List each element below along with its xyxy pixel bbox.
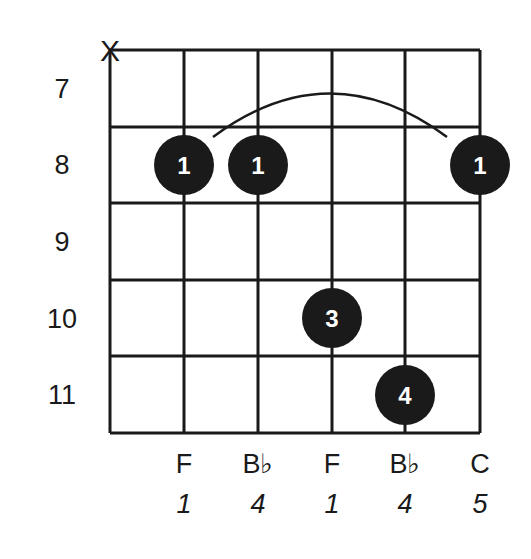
barre-arc bbox=[213, 94, 447, 138]
interval: 4 bbox=[397, 489, 412, 519]
interval-numbers: 1 4 1 4 5 bbox=[176, 489, 488, 519]
interval: 1 bbox=[324, 489, 339, 519]
finger-number: 4 bbox=[398, 382, 412, 409]
interval: 5 bbox=[472, 489, 488, 519]
interval: 4 bbox=[250, 489, 265, 519]
chord-diagram: X 7 8 9 10 11 1 1 3 4 1 F B♭ F bbox=[0, 0, 531, 559]
finger-number: 3 bbox=[325, 305, 338, 332]
note-name: F bbox=[176, 449, 193, 479]
fret-number: 11 bbox=[48, 380, 76, 410]
note-name: B♭ bbox=[242, 449, 273, 479]
fret-number: 8 bbox=[54, 150, 69, 180]
note-name: B♭ bbox=[389, 449, 420, 479]
fret-number: 7 bbox=[54, 74, 69, 104]
finger-dot: 1 bbox=[154, 135, 214, 195]
finger-number: 1 bbox=[177, 152, 190, 179]
interval: 1 bbox=[176, 489, 191, 519]
finger-number: 1 bbox=[251, 152, 264, 179]
finger-dot: 4 bbox=[375, 365, 435, 425]
fret-numbers: 7 8 9 10 11 bbox=[47, 74, 77, 410]
fret-number: 10 bbox=[47, 304, 77, 334]
finger-dot: 1 bbox=[450, 135, 510, 195]
finger-dot: 1 bbox=[228, 135, 288, 195]
finger-dot: 3 bbox=[302, 288, 362, 348]
finger-number: 1 bbox=[473, 152, 486, 179]
muted-string-marker: X bbox=[100, 34, 120, 67]
note-names: F B♭ F B♭ C bbox=[176, 449, 490, 479]
fret-number: 9 bbox=[54, 227, 69, 257]
note-name: F bbox=[324, 449, 341, 479]
note-name: C bbox=[470, 449, 490, 479]
